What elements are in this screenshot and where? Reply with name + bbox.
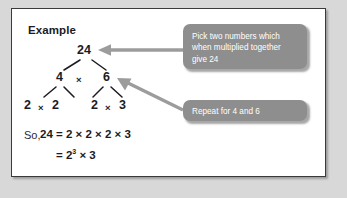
edge-4-to-2a: [44, 87, 56, 97]
tree-operator-left-pair: ×: [38, 103, 44, 113]
tree-node-root: 24: [77, 44, 91, 57]
callout-repeat: Repeat for 4 and 6: [183, 100, 307, 121]
conclusion-line-2: = 23 × 3: [56, 148, 96, 161]
tree-leaf-right-a: 2: [91, 99, 98, 112]
tree-node-4: 4: [56, 71, 63, 84]
arrow-to-root-icon: [98, 44, 183, 56]
conclusion-line-2-suffix: × 3: [76, 149, 96, 161]
tree-leaf-left-b: 2: [52, 99, 59, 112]
tree-operator-top: ×: [76, 75, 82, 85]
arrow-to-six-icon: [117, 78, 183, 110]
edge-4-to-2b: [64, 87, 74, 97]
callout-repeat-line-1: Repeat for 4 and 6: [192, 106, 299, 117]
callout-give-24-line-2: when multiplied together: [192, 42, 299, 53]
callout-give-24: Pick two numbers which when multiplied t…: [183, 24, 307, 69]
conclusion-line-1: 24 = 2 × 2 × 2 × 3: [40, 129, 131, 141]
tree-operator-right-pair: ×: [105, 103, 111, 113]
conclusion-line-2-prefix: = 2: [56, 149, 72, 161]
edge-24-to-4: [64, 60, 80, 70]
figure-page: Example 24 4 × 6 2 × 2 2 × 3 So, 24 = 2 …: [0, 0, 347, 198]
callout-give-24-line-1: Pick two numbers which: [192, 31, 299, 42]
tree-node-6: 6: [103, 71, 110, 84]
edge-6-to-3: [111, 87, 122, 97]
callout-give-24-line-3: give 24: [192, 54, 299, 65]
edge-24-to-6: [92, 60, 106, 70]
conclusion-prefix: So,: [24, 130, 41, 141]
edge-6-to-2c: [93, 87, 103, 97]
page-title: Example: [28, 25, 76, 37]
tree-leaf-left-a: 2: [24, 99, 31, 112]
tree-leaf-right-b: 3: [119, 99, 126, 112]
